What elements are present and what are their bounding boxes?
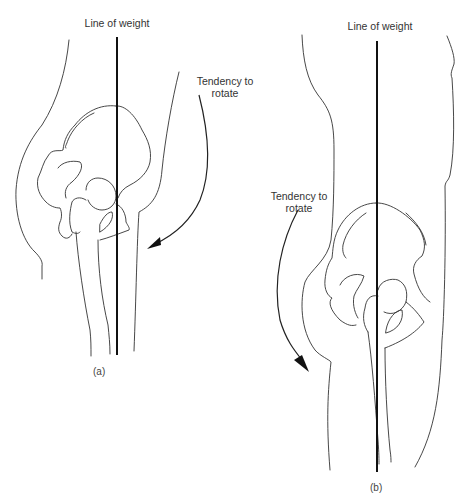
figure-a-femur-lateral: [76, 232, 91, 356]
figure-b-body-front-outline: [415, 36, 454, 467]
figure-a-obturator: [58, 161, 82, 198]
figure-b-obturator: [340, 274, 364, 318]
figure-a-rotation-arrow: [155, 95, 207, 244]
posture-diagram: Line of weight Tendency to rotate (a) Li…: [0, 0, 466, 504]
figure-b-rotation-label: Tendency to rotate: [265, 190, 333, 214]
figure-b-rotation-label-line2: rotate: [265, 202, 333, 214]
figure-a-femoral-head: [86, 178, 116, 210]
figure-a-body-back-outline: [16, 40, 69, 279]
figure-a-body-front-outline: [134, 72, 179, 351]
figure-b-drawing: [277, 35, 454, 472]
figure-b-femoral-head: [378, 279, 407, 313]
figure-a-ilium-crest: [116, 106, 151, 198]
figure-b-arrowhead-icon: [294, 355, 309, 372]
figure-b-rotation-label-line1: Tendency to: [265, 190, 333, 202]
figure-a-drawing: [16, 37, 208, 356]
figure-a-caption: (a): [93, 366, 105, 377]
figure-a-iliac-inner: [65, 113, 94, 148]
figure-a-acetabulum: [100, 212, 113, 232]
figure-b-line-of-weight-label: Line of weight: [343, 20, 417, 32]
figure-b-greater-trochanter: [364, 296, 378, 332]
figure-b-body-back-outline: [302, 35, 334, 470]
figure-a-femur-medial: [98, 240, 110, 354]
figure-b-iliac-inner: [343, 213, 366, 258]
figure-b-ilium-crest: [376, 203, 430, 302]
figure-a-rotation-label-line1: Tendency to: [190, 75, 260, 87]
figure-a-rotation-label: Tendency to rotate: [190, 75, 260, 99]
figure-a-line-of-weight-label: Line of weight: [80, 17, 154, 29]
figure-b-femur-medial: [385, 348, 391, 462]
figure-b-caption: (b): [370, 482, 382, 493]
figure-b-pubis: [385, 302, 424, 348]
figure-b-rotation-arrow: [277, 210, 302, 360]
figure-a-rotation-label-line2: rotate: [190, 87, 260, 99]
figure-a-greater-trochanter: [70, 198, 86, 234]
figure-a-arrowhead-icon: [147, 237, 161, 249]
